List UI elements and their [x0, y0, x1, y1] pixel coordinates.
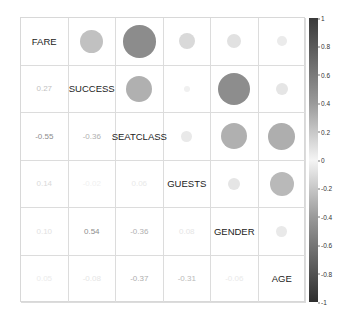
matrix-cell: 0.10: [21, 208, 69, 256]
matrix-cell: GENDER: [211, 208, 259, 256]
matrix-cell: [259, 66, 307, 114]
matrix-cell: -0.36: [116, 208, 164, 256]
colorbar: [309, 18, 318, 302]
correlation-value: -0.36: [83, 132, 101, 141]
correlation-value: 0.27: [36, 84, 52, 93]
variable-label: GUESTS: [167, 178, 206, 189]
matrix-cell: [259, 113, 307, 161]
matrix-cell: -0.55: [21, 113, 69, 161]
variable-label: AGE: [272, 273, 292, 284]
matrix-cell: 0.27: [21, 66, 69, 114]
correlation-circle: [221, 123, 247, 149]
matrix-cell: [164, 18, 212, 66]
correlation-circle: [126, 76, 152, 102]
correlation-value: -0.37: [130, 274, 148, 283]
matrix-cell: [164, 66, 212, 114]
matrix-cell: -0.06: [211, 256, 259, 304]
correlation-value: -0.02: [83, 179, 101, 188]
correlation-value: 0.54: [84, 227, 100, 236]
colorbar-tick: -0.6: [321, 242, 332, 249]
variable-label: GENDER: [214, 226, 255, 237]
matrix-cell: [259, 208, 307, 256]
correlation-circle: [181, 131, 192, 142]
correlation-circle: [218, 73, 250, 105]
colorbar-tick: 0.8: [321, 43, 330, 50]
colorbar-tick: 1: [321, 15, 325, 22]
matrix-cell: 0.14: [21, 161, 69, 209]
colorbar-tick: 0.4: [321, 100, 330, 107]
variable-label: SUCCESS: [69, 83, 115, 94]
correlation-value: -0.55: [35, 132, 53, 141]
variable-label: FARE: [32, 36, 57, 47]
colorbar-tick: -0.8: [321, 270, 332, 277]
colorbar-tick: 0: [321, 157, 325, 164]
matrix-cell: GUESTS: [164, 161, 212, 209]
correlation-value: -0.36: [130, 227, 148, 236]
colorbar-tick: -1: [321, 299, 327, 306]
matrix-cell: -0.02: [69, 161, 117, 209]
matrix-cell: FARE: [21, 18, 69, 66]
matrix-cell: [211, 66, 259, 114]
correlation-circle: [268, 123, 295, 150]
matrix-cell: [164, 113, 212, 161]
matrix-cell: [116, 18, 164, 66]
matrix-cell: [116, 66, 164, 114]
correlation-value: 0.10: [36, 227, 52, 236]
matrix-cell: 0.06: [116, 161, 164, 209]
correlation-circle: [123, 25, 156, 58]
correlation-value: -0.06: [225, 274, 243, 283]
correlation-value: 0.14: [36, 179, 52, 188]
correlation-circle: [227, 34, 241, 48]
matrix-cell: -0.08: [69, 256, 117, 304]
matrix-cell: [211, 18, 259, 66]
correlation-value: 0.06: [131, 179, 147, 188]
colorbar-tick: 0.6: [321, 71, 330, 78]
correlation-grid: FARE0.27SUCCESS-0.55-0.36SEATCLASS0.14-0…: [20, 17, 305, 302]
matrix-cell: -0.36: [69, 113, 117, 161]
colorbar-tick: -0.2: [321, 185, 332, 192]
matrix-cell: [259, 161, 307, 209]
correlation-circle: [80, 30, 103, 53]
matrix-cell: [69, 18, 117, 66]
matrix-cell: [211, 113, 259, 161]
matrix-cell: AGE: [259, 256, 307, 304]
correlation-value: 0.08: [179, 227, 195, 236]
matrix-cell: SUCCESS: [69, 66, 117, 114]
matrix-cell: [259, 18, 307, 66]
matrix-cell: -0.37: [116, 256, 164, 304]
matrix-cell: -0.31: [164, 256, 212, 304]
correlation-value: 0.05: [36, 274, 52, 283]
matrix-cell: [211, 161, 259, 209]
colorbar-tick: -0.4: [321, 213, 332, 220]
variable-label: SEATCLASS: [112, 131, 167, 142]
matrix-cell: 0.54: [69, 208, 117, 256]
matrix-cell: 0.05: [21, 256, 69, 304]
correlation-value: -0.08: [83, 274, 101, 283]
matrix-cell: SEATCLASS: [116, 113, 164, 161]
colorbar-tick: 0.2: [321, 128, 330, 135]
correlation-circle: [184, 86, 190, 92]
correlation-circle: [276, 83, 288, 95]
correlation-circle: [276, 226, 287, 237]
correlation-circle: [270, 172, 294, 196]
correlation-circle: [228, 178, 240, 190]
correlation-circle: [179, 33, 195, 49]
correlation-circle: [277, 36, 287, 46]
matrix-cell: 0.08: [164, 208, 212, 256]
correlation-value: -0.31: [178, 274, 196, 283]
